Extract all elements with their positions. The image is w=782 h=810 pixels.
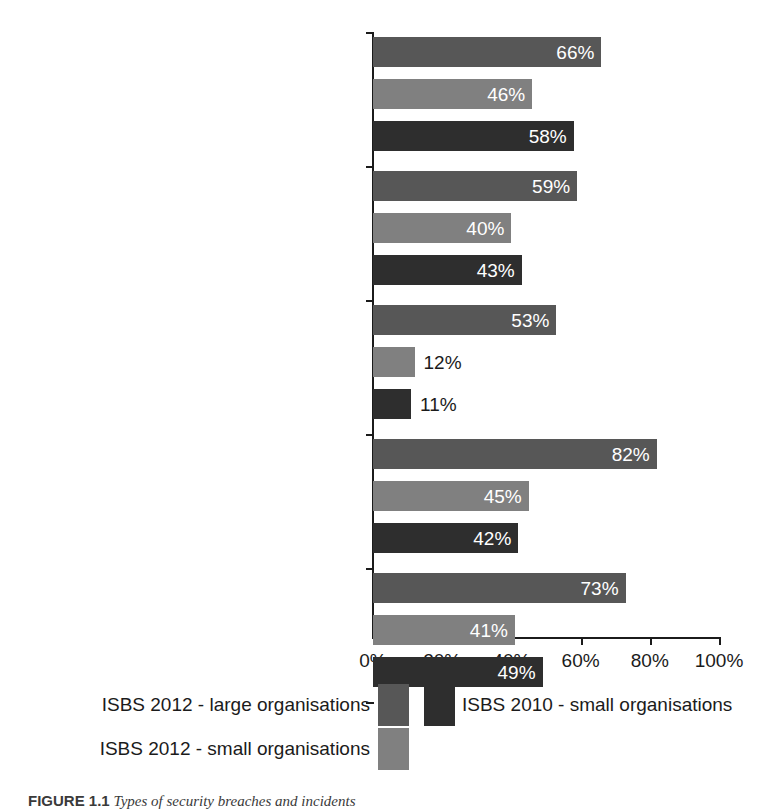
bar-value-label: 43% [477, 261, 515, 280]
legend-label: ISBS 2010 - small organisations [462, 694, 732, 716]
bar-value-label: 73% [581, 579, 619, 598]
bar: 45% [373, 481, 529, 511]
x-tick-label: 80% [631, 648, 669, 674]
bar: 40% [373, 213, 511, 243]
bar: 66% [373, 37, 601, 67]
bar: 82% [373, 439, 657, 469]
bar [373, 389, 411, 419]
bar: 73% [373, 573, 626, 603]
bar-value-label: 82% [612, 445, 650, 464]
bar [373, 347, 415, 377]
bar-value-label: 46% [487, 85, 525, 104]
legend-swatch [424, 684, 455, 726]
legend-label: ISBS 2012 - small organisations [0, 738, 370, 760]
bar: 43% [373, 255, 522, 285]
legend-swatch [378, 728, 409, 770]
x-tick [581, 637, 583, 645]
bar-value-label: 12% [424, 353, 462, 372]
bar-value-label: 66% [556, 43, 594, 62]
bar: 46% [373, 79, 532, 109]
figure-caption-text: Types of security breaches and incidents [113, 793, 355, 809]
bar-value-label: 41% [470, 621, 508, 640]
bar-value-label: 45% [484, 487, 522, 506]
bar-value-label: 59% [532, 177, 570, 196]
bar-value-label: 58% [529, 127, 567, 146]
plot-area: 66%46%58%59%40%43%53%12%11%82%45%42%73%4… [373, 32, 718, 637]
bar: 41% [373, 615, 515, 645]
bar-value-label: 49% [498, 663, 536, 682]
bar: 58% [373, 121, 574, 151]
figure-caption-number: FIGURE 1.1 [28, 792, 110, 809]
x-tick-label: 100% [695, 648, 744, 674]
bar-chart: 0%20%40%60%80%100% 66%46%58%59%40%43%53%… [0, 0, 782, 810]
legend-label: ISBS 2012 - large organisations [0, 694, 370, 716]
bar: 42% [373, 523, 518, 553]
bar-value-label: 42% [473, 529, 511, 548]
x-tick [719, 637, 721, 645]
figure-caption: FIGURE 1.1 Types of security breaches an… [28, 791, 768, 810]
legend-swatch [378, 684, 409, 726]
x-tick [650, 637, 652, 645]
chart-legend: ISBS 2012 - large organisationsISBS 2010… [0, 683, 782, 775]
bar: 53% [373, 305, 556, 335]
bar-value-label: 11% [420, 395, 457, 414]
bar-value-label: 53% [511, 311, 549, 330]
bar: 59% [373, 171, 577, 201]
bar-value-label: 40% [466, 219, 504, 238]
x-tick-label: 60% [562, 648, 600, 674]
